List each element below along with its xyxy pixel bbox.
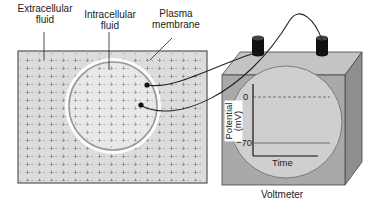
membrane-line1: Plasma bbox=[150, 8, 202, 19]
y-axis-label: Potential (mV) bbox=[224, 101, 242, 142]
tick-zero: 0 bbox=[243, 91, 248, 102]
extracellular-fluid-label: Extracellular fluid bbox=[14, 3, 76, 25]
intracellular-line2: fluid bbox=[80, 20, 140, 31]
y-axis-label-line2: (mV) bbox=[233, 103, 242, 140]
electrode-tip-inside bbox=[138, 102, 143, 107]
intracellular-fluid-label: Intracellular fluid bbox=[80, 9, 140, 31]
membrane-potential-diagram: + - bbox=[0, 0, 372, 207]
voltmeter-label: Voltmeter bbox=[252, 189, 312, 200]
electrode-tip-outside bbox=[144, 82, 149, 87]
plasma-membrane-label: Plasma membrane bbox=[150, 8, 202, 30]
extracellular-line1: Extracellular bbox=[14, 3, 76, 14]
x-axis-label: Time bbox=[272, 157, 293, 168]
intracellular-line1: Intracellular bbox=[80, 9, 140, 20]
membrane-line2: membrane bbox=[150, 19, 202, 30]
extracellular-line2: fluid bbox=[14, 14, 76, 25]
cell bbox=[65, 58, 161, 154]
box-side bbox=[345, 52, 362, 185]
